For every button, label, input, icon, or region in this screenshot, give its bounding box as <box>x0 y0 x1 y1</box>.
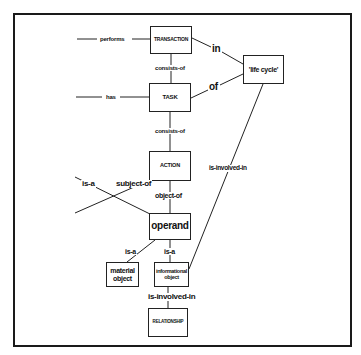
edge-label-subject-of: subject-of <box>115 180 152 188</box>
node-informational-object: informational object <box>154 262 189 287</box>
edge-label-is-involved-in-relationship: is-involved-in <box>147 293 196 301</box>
edge-label-has: has <box>105 94 117 100</box>
edge-label-is-involved-in-lifecycle: is-involved-in <box>208 165 248 172</box>
node-task: TASK <box>149 83 191 112</box>
edge-label-performs: performs <box>99 36 125 42</box>
node-action: ACTION <box>149 151 191 181</box>
node-material-object: material object <box>106 262 139 287</box>
edge-label-object-of: object-of <box>154 192 183 199</box>
edge-label-consists-of-1: consists-of <box>154 65 186 71</box>
edge-label-is-a-material: is-a <box>124 248 137 255</box>
node-operand: operand <box>149 213 191 240</box>
node-life-cycle: 'life cycle' <box>243 55 284 84</box>
edge-label-is-a-left: is-a <box>81 180 96 188</box>
node-relationship: RELATIONSHIP <box>148 308 188 337</box>
node-transaction: TRANSACTION <box>150 26 192 54</box>
edge-label-consists-of-2: consists-of <box>154 128 186 134</box>
edge-label-of: of <box>208 82 219 92</box>
edge-label-in: in <box>211 44 221 54</box>
edge-label-is-a-informational: is-a <box>163 248 176 255</box>
